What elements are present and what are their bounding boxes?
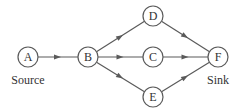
arrowhead-icon bbox=[117, 54, 124, 59]
node-label: D bbox=[149, 9, 158, 23]
node-label: B bbox=[84, 50, 92, 64]
edge-E-F bbox=[162, 62, 210, 92]
node-D: D bbox=[143, 6, 163, 26]
arrowhead-icon bbox=[54, 54, 61, 59]
node-A: A bbox=[18, 47, 38, 67]
flow-network-diagram: ABCDEF Source Sink bbox=[0, 0, 246, 112]
node-B: B bbox=[78, 47, 98, 67]
sink-caption: Sink bbox=[207, 73, 229, 87]
node-label: E bbox=[149, 90, 156, 104]
arrowhead-icon bbox=[116, 35, 123, 41]
edges bbox=[38, 21, 210, 91]
node-label: A bbox=[24, 50, 33, 64]
node-E: E bbox=[143, 87, 163, 107]
edge-B-E bbox=[97, 62, 145, 92]
edge-D-F bbox=[161, 21, 209, 51]
node-C: C bbox=[143, 47, 163, 67]
edge-B-D bbox=[96, 21, 144, 51]
edge-A-B bbox=[38, 54, 78, 59]
edge-B-C bbox=[98, 54, 143, 59]
arrowhead-icon bbox=[182, 54, 189, 59]
node-label: C bbox=[149, 50, 157, 64]
source-caption: Source bbox=[11, 73, 44, 87]
arrowhead-icon bbox=[116, 73, 123, 79]
arrowhead-icon bbox=[181, 75, 188, 81]
node-F: F bbox=[208, 47, 228, 67]
arrowhead-icon bbox=[181, 32, 188, 38]
edge-C-F bbox=[163, 54, 208, 59]
node-label: F bbox=[215, 50, 222, 64]
